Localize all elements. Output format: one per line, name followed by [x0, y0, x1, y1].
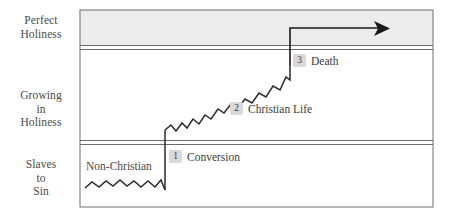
axis-label-growing-in-holiness: Growing in Holiness — [6, 89, 76, 130]
stage-label-christian-life: 2 Christian Life — [230, 102, 312, 115]
stage-badge-1: 1 — [169, 150, 182, 163]
stage-badge-2: 2 — [230, 102, 243, 115]
annotation-non-christian: Non-Christian — [86, 160, 152, 172]
holiness-diagram: Perfect Holiness Growing in Holiness Sla… — [0, 0, 455, 220]
divider-growing-slaves — [80, 141, 433, 145]
series-christian-life-path — [165, 65, 290, 131]
stage-text-conversion: Conversion — [187, 151, 240, 163]
divider-perfect-growing — [80, 46, 433, 50]
stage-text-death: Death — [311, 55, 338, 67]
stage-label-death: 3 Death — [293, 54, 338, 67]
series-non-christian-path — [85, 180, 165, 190]
stage-badge-3: 3 — [293, 54, 306, 67]
stage-label-conversion: 1 Conversion — [169, 150, 240, 163]
axis-label-perfect-holiness: Perfect Holiness — [6, 14, 76, 41]
stage-text-christian-life: Christian Life — [248, 103, 312, 115]
axis-label-slaves-to-sin: Slaves to Sin — [6, 158, 76, 199]
